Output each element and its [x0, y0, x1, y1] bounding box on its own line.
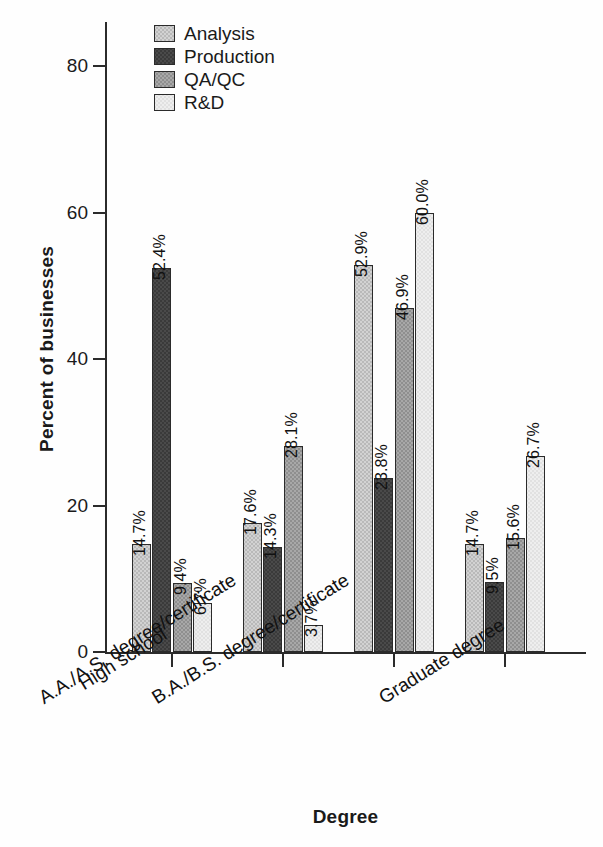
y-tick-mark	[93, 212, 105, 214]
x-tick-mark	[282, 654, 284, 667]
bar-value-label: 14.7%	[464, 510, 482, 556]
x-tick-mark	[393, 654, 395, 667]
chart-legend: AnalysisProductionQA/QCR&D	[154, 22, 275, 114]
bar-chart: AnalysisProductionQA/QCR&D 020406080 Per…	[0, 0, 603, 847]
bar-qaqc-group-3[interactable]	[395, 308, 414, 652]
bar-value-label: 15.6%	[505, 504, 523, 550]
legend-label: Production	[184, 47, 275, 66]
legend-item-analysis[interactable]: Analysis	[154, 22, 275, 45]
legend-item-rd[interactable]: R&D	[154, 91, 275, 114]
bar-value-label: 60.0%	[414, 179, 432, 225]
x-axis-title: Degree	[105, 806, 586, 828]
bar-value-label: 23.8%	[373, 444, 391, 490]
bar-analysis-group-3[interactable]	[354, 265, 373, 652]
bar-value-label: 28.1%	[283, 412, 301, 458]
legend-item-qaqc[interactable]: QA/QC	[154, 68, 275, 91]
bar-value-label: 26.7%	[525, 423, 543, 469]
bar-value-label: 17.6%	[242, 489, 260, 535]
y-tick-label: 80	[44, 55, 88, 77]
bar-value-label: 46.9%	[394, 275, 412, 321]
y-axis-line	[105, 22, 107, 653]
bar-value-label: 52.9%	[353, 231, 371, 277]
bar-value-label: 14.3%	[262, 513, 280, 559]
bar-production-group-1[interactable]	[152, 268, 171, 652]
y-tick-mark	[93, 358, 105, 360]
legend-swatch-production-icon	[154, 48, 175, 65]
bar-rd-group-4[interactable]	[526, 456, 545, 652]
legend-label: QA/QC	[184, 70, 245, 89]
x-tick-mark	[171, 654, 173, 667]
y-tick-label: 20	[44, 495, 88, 517]
bar-value-label: 14.7%	[131, 510, 149, 556]
x-tick-mark	[504, 654, 506, 667]
legend-label: R&D	[184, 93, 224, 112]
y-tick-mark	[93, 505, 105, 507]
bar-value-label: 52.4%	[151, 234, 169, 280]
legend-swatch-analysis-icon	[154, 25, 175, 42]
bar-qaqc-group-4[interactable]	[506, 538, 525, 652]
legend-swatch-qaqc-icon	[154, 71, 175, 88]
legend-item-production[interactable]: Production	[154, 45, 275, 68]
bar-value-label: 9.5%	[484, 558, 502, 595]
y-axis-title: Percent of businesses	[36, 219, 58, 479]
y-tick-mark	[93, 65, 105, 67]
legend-label: Analysis	[184, 24, 255, 43]
bar-value-label: 9.4%	[172, 558, 190, 595]
bar-production-group-3[interactable]	[374, 478, 393, 652]
bar-rd-group-3[interactable]	[415, 213, 434, 653]
legend-swatch-rd-icon	[154, 94, 175, 111]
x-axis-line	[105, 652, 586, 654]
